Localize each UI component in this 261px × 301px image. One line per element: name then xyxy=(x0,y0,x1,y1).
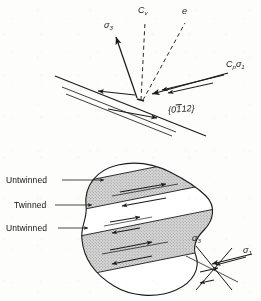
lamella-trace-lower xyxy=(66,94,172,136)
upper-panel-group xyxy=(55,22,228,136)
label-cp-sigma-sub: 1 xyxy=(241,63,244,70)
label-e: e xyxy=(182,7,187,16)
shear-tick-lower-b xyxy=(200,280,214,283)
label-sigma1-lower-sub: 1 xyxy=(248,249,251,256)
dashed-axis-e xyxy=(143,23,185,100)
label-sigma3-upper-sub: 3 xyxy=(109,24,112,31)
callout-label-untwinned-top: Untwinned xyxy=(6,176,47,185)
label-sigma3-lower: σ3 xyxy=(192,234,201,244)
callout-label-untwinned-bottom: Untwinned xyxy=(6,224,47,233)
diagram-canvas xyxy=(0,0,261,301)
label-cv-sub: v xyxy=(145,9,148,16)
plane-brace-close: } xyxy=(191,103,195,113)
label-sigma1-lower: σ1 xyxy=(243,246,252,256)
callout-label-twinned: Twinned xyxy=(14,201,46,210)
figure-root: σ3 Cv e Cpσ1 {0112} Untwinned Twinned Un… xyxy=(0,0,261,301)
lower-panel-group xyxy=(55,152,252,295)
shear-arrow-left xyxy=(98,91,135,95)
label-sigma3-upper: σ3 xyxy=(104,21,113,31)
label-plane-indices: {0112} xyxy=(168,103,195,115)
label-cv: Cv xyxy=(138,6,148,16)
arrow-sigma3-upper xyxy=(116,37,137,98)
label-cp-sigma1: Cpσ1 xyxy=(226,60,245,70)
label-sigma3-lower-sub: 3 xyxy=(197,237,200,244)
dashed-axis-cv xyxy=(141,22,145,100)
